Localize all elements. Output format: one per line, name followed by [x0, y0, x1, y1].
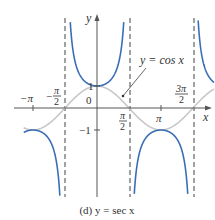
sec-branch: [198, 21, 214, 83]
svg-text:3π: 3π: [175, 83, 187, 94]
svg-text:π: π: [54, 85, 60, 96]
y-tick-1-label: 1: [88, 80, 94, 92]
x-axis-label: x: [202, 110, 209, 124]
sec-branch: [24, 130, 60, 196]
svg-text:−: −: [46, 90, 52, 102]
origin-label: 0: [86, 94, 92, 106]
cos-annotation-pointer: [123, 68, 146, 96]
sec-chart: y x 0 1 −1 −π − π 2 π 2 π 3π 2 y = cos x…: [0, 0, 215, 220]
axes: [14, 20, 208, 197]
svg-text:2: 2: [179, 94, 184, 105]
svg-text:2: 2: [54, 96, 59, 107]
x-tick-neg-pi-half-label: − π 2: [46, 85, 61, 107]
y-axis-label: y: [85, 11, 92, 25]
x-tick-neg-pi-label: −π: [20, 92, 33, 104]
x-tick-three-pi-half-label: 3π 2: [175, 83, 188, 105]
y-tick-neg1-label: −1: [79, 124, 91, 136]
x-tick-pi-label: π: [156, 112, 162, 124]
x-tick-pi-half-label: π 2: [119, 110, 127, 132]
cos-annotation-dot: [122, 95, 125, 98]
svg-text:π: π: [120, 110, 126, 121]
sec-branch: [134, 130, 187, 194]
svg-text:2: 2: [120, 121, 125, 132]
cos-annotation-label: y = cos x: [139, 53, 184, 67]
y-axis-arrow-icon: [95, 14, 100, 21]
chart-caption: (d) y = sec x: [79, 204, 135, 217]
